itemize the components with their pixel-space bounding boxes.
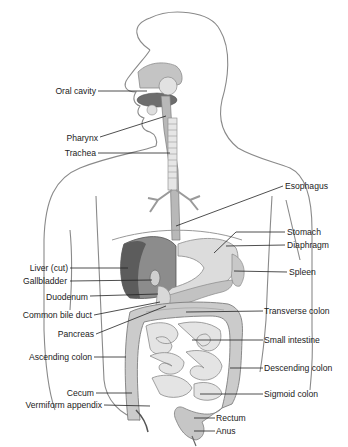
label-vermiform-appendix: Vermiform appendix — [26, 400, 102, 410]
label-cecum: Cecum — [67, 388, 94, 398]
label-transverse-colon: Transverse colon — [264, 306, 334, 316]
gallbladder — [150, 270, 160, 286]
label-diaphragm: Diaphragm — [287, 240, 329, 250]
salivary-gland-lower — [147, 105, 157, 115]
label-duodenum: Duodenum — [46, 292, 88, 302]
trachea-rings — [168, 118, 177, 190]
small-intestine — [146, 322, 222, 400]
sigmoid-rectum — [174, 407, 222, 440]
spleen — [231, 254, 244, 286]
label-stomach: Stomach — [287, 227, 321, 237]
label-spleen: Spleen — [289, 267, 316, 277]
label-rectum: Rectum — [216, 413, 246, 423]
label-esophagus: Esophagus — [285, 181, 328, 191]
label-sigmoid-colon: Sigmoid colon — [264, 389, 318, 399]
label-anus: Anus — [216, 426, 236, 436]
label-pancreas: Pancreas — [58, 329, 94, 339]
digestive-system-diagram — [0, 0, 348, 447]
label-oral-cavity: Oral cavity — [55, 86, 96, 96]
label-common-bile-duct: Common bile duct — [23, 310, 92, 320]
label-liver: Liver (cut) — [30, 263, 68, 273]
tongue — [137, 93, 177, 107]
salivary-gland — [159, 77, 177, 95]
label-small-intestine: Small intestine — [264, 335, 320, 345]
label-ascending-colon: Ascending colon — [29, 352, 92, 362]
label-pharynx: Pharynx — [66, 133, 98, 143]
label-trachea: Trachea — [65, 148, 96, 158]
label-gallbladder: Gallbladder — [23, 276, 67, 286]
label-descending-colon: Descending colon — [264, 363, 334, 373]
